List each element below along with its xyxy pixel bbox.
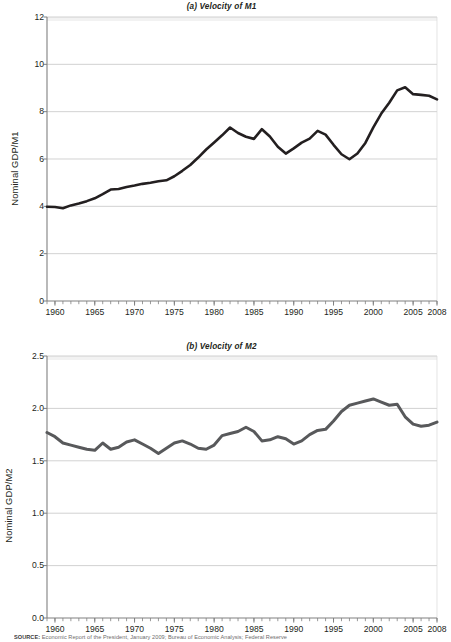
- panel-b-plot-area: Nominal GDP/M2 0.00.51.01.52.02.5 196019…: [0, 352, 443, 642]
- y-tick-label: 0.5: [32, 561, 44, 570]
- x-tick-label: 1995: [316, 308, 352, 317]
- y-tick-label: 6: [39, 155, 44, 164]
- panel-b-y-axis-title: Nominal GDP/M2: [3, 458, 14, 554]
- x-tick-label: 2000: [355, 308, 391, 317]
- x-tick-label: 1970: [117, 308, 153, 317]
- panel-b-y-tick-labels: 0.00.51.01.52.02.5: [18, 352, 44, 642]
- x-tick-label: 1985: [236, 308, 272, 317]
- x-tick-label: 1965: [77, 625, 113, 634]
- y-tick-label: 10: [34, 60, 44, 69]
- y-tick-label: 0.0: [32, 614, 44, 623]
- panel-b-svg: [0, 352, 443, 642]
- panel-a-y-tick-labels: 024681012: [18, 13, 44, 325]
- x-tick-label: 1975: [156, 308, 192, 317]
- x-tick-label: 1970: [117, 625, 153, 634]
- y-tick-label: 2.5: [32, 352, 44, 361]
- source-text: Economic Report of the President, Januar…: [42, 634, 287, 640]
- x-tick-label: 1995: [316, 625, 352, 634]
- x-tick-label: 2008: [419, 308, 451, 317]
- panel-a-svg: [0, 13, 443, 325]
- y-tick-label: 0: [39, 297, 44, 306]
- source-label: SOURCE:: [14, 634, 40, 640]
- y-tick-label: 8: [39, 107, 44, 116]
- chart-panel-velocity-m1: (a) Velocity of M1 Nominal GDP/M1 024681…: [0, 0, 443, 330]
- x-tick-label: 2000: [355, 625, 391, 634]
- panel-a-title: (a) Velocity of M1: [0, 2, 443, 11]
- y-tick-label: 12: [34, 13, 44, 22]
- source-note: SOURCE: Economic Report of the President…: [14, 634, 444, 640]
- panel-a-plot-area: Nominal GDP/M1 024681012 196019651970197…: [0, 13, 443, 325]
- x-tick-label: 1960: [37, 308, 73, 317]
- x-tick-label: 1960: [37, 625, 73, 634]
- x-tick-label: 2008: [419, 625, 451, 634]
- x-tick-label: 1980: [196, 625, 232, 634]
- x-tick-label: 1985: [236, 625, 272, 634]
- y-tick-label: 4: [39, 202, 44, 211]
- x-tick-label: 1990: [276, 625, 312, 634]
- x-tick-label: 1975: [156, 625, 192, 634]
- chart-panel-velocity-m2: (b) Velocity of M2 Nominal GDP/M2 0.00.5…: [0, 330, 443, 630]
- y-tick-label: 2: [39, 249, 44, 258]
- x-tick-label: 1965: [77, 308, 113, 317]
- y-tick-label: 1.5: [32, 457, 44, 466]
- y-tick-label: 2.0: [32, 404, 44, 413]
- x-tick-label: 1980: [196, 308, 232, 317]
- y-tick-label: 1.0: [32, 509, 44, 518]
- x-tick-label: 1990: [276, 308, 312, 317]
- panel-b-title: (b) Velocity of M2: [0, 342, 443, 351]
